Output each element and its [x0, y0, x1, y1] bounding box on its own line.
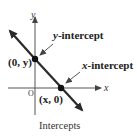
y-intercept-label: y-intercept [53, 30, 104, 41]
origin-label: O [28, 90, 34, 98]
y-intercept-point [32, 56, 38, 62]
x-intercept-coordinate: (x, 0) [39, 94, 63, 105]
x-intercept-point [58, 85, 64, 91]
x-intercept-pointer [66, 72, 80, 83]
line-left-arrow [10, 31, 35, 59]
y-intercept-pointer [40, 44, 53, 55]
x-intercept-label: x-intercept [82, 60, 133, 71]
diagram-caption: Intercepts [39, 121, 80, 132]
x-axis-label: x [104, 83, 108, 93]
y-axis-label: y [31, 10, 35, 20]
intercepts-diagram: y x O y-intercept x-intercept (0, y) (x,… [0, 0, 137, 138]
y-intercept-coordinate: (0, y) [8, 57, 32, 68]
